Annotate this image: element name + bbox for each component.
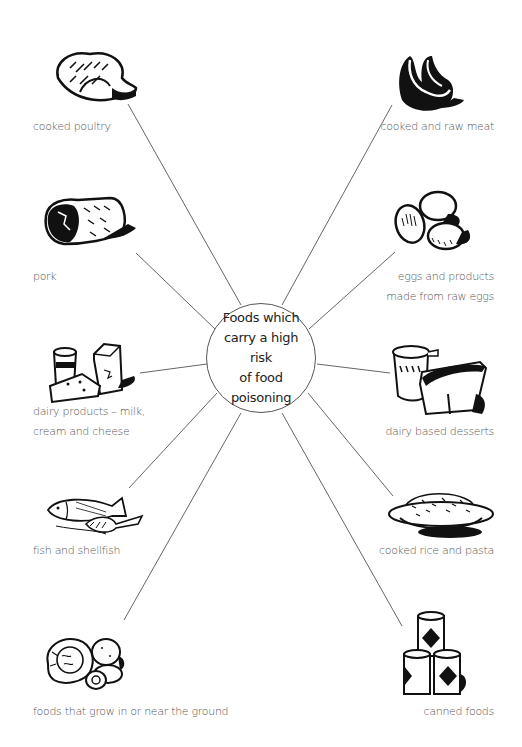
dessert-pots-icon <box>393 346 486 414</box>
connector-canned <box>282 413 402 626</box>
center-line-3: of food <box>211 368 311 388</box>
label-dairy-text-1: dairy products – milk, <box>33 402 145 422</box>
center-line-2: carry a high risk <box>211 328 311 368</box>
label-eggs-text-2: made from raw eggs <box>386 287 494 307</box>
center-hub: Foods which carry a high risk of food po… <box>206 303 316 413</box>
label-meat: cooked and raw meat <box>380 117 494 137</box>
connector-desserts <box>317 364 390 373</box>
label-rice: cooked rice and pasta <box>379 541 494 561</box>
center-title: Foods which carry a high risk of food po… <box>211 308 311 408</box>
cans-icon <box>404 612 466 694</box>
raw-meat-icon <box>399 56 464 111</box>
connector-poultry <box>128 104 241 305</box>
roast-chicken-icon <box>57 53 136 100</box>
label-canned: canned foods <box>424 702 494 722</box>
label-fish-text: fish and shellfish <box>33 541 120 561</box>
label-rice-text: cooked rice and pasta <box>379 541 494 561</box>
connector-meat <box>282 105 392 305</box>
connector-eggs <box>309 252 395 329</box>
label-pork: pork <box>33 267 56 287</box>
label-desserts: dairy based desserts <box>385 422 494 442</box>
label-poultry-text: cooked poultry <box>33 117 111 137</box>
label-dairy: dairy products – milk, cream and cheese <box>33 402 145 442</box>
connector-pork <box>136 253 215 329</box>
label-pork-text: pork <box>33 267 56 287</box>
dairy-icon <box>50 344 135 402</box>
label-fish: fish and shellfish <box>33 541 120 561</box>
center-line-4: poisoning <box>211 388 311 408</box>
label-eggs: eggs and products made from raw eggs <box>386 267 494 307</box>
label-eggs-text-1: eggs and products <box>386 267 494 287</box>
label-meat-text: cooked and raw meat <box>380 117 494 137</box>
pork-joint-icon <box>46 198 136 244</box>
label-poultry: cooked poultry <box>33 117 111 137</box>
fish-icon <box>48 498 142 534</box>
connector-dairy <box>140 364 207 373</box>
label-ground: foods that grow in or near the ground <box>33 702 228 722</box>
label-dairy-text-2: cream and cheese <box>33 422 145 442</box>
label-canned-text: canned foods <box>424 702 494 722</box>
label-desserts-text: dairy based desserts <box>385 422 494 442</box>
rice-bowl-icon <box>389 494 493 538</box>
connector-rice <box>308 393 393 496</box>
eggs-icon <box>392 192 471 249</box>
vegetables-icon <box>47 639 124 689</box>
label-ground-text: foods that grow in or near the ground <box>33 702 228 722</box>
center-line-1: Foods which <box>211 308 311 328</box>
food-risk-diagram: Foods which carry a high risk of food po… <box>0 0 522 747</box>
